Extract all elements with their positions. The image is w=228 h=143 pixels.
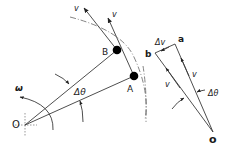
label-A: A <box>127 84 134 94</box>
delta-theta-arrow-right-upper <box>197 90 205 92</box>
label-delta-theta: Δθ <box>73 87 86 97</box>
label-omega: ω <box>15 83 23 93</box>
label-v-oa: v <box>192 70 197 79</box>
circular-motion-diagram: O B A ω Δθ v v o a b Δv v v Δθ <box>0 0 228 143</box>
label-delta-theta-right: Δθ <box>207 89 218 98</box>
right-figure: o a b Δv v v Δθ <box>143 34 218 143</box>
delta-theta-arrow-lower <box>80 101 83 122</box>
label-B: B <box>102 47 108 57</box>
radius-OA <box>25 76 134 125</box>
velocity-vector-A <box>108 18 134 76</box>
label-a: a <box>178 34 184 44</box>
label-delta-v: Δv <box>154 38 165 47</box>
label-O: O <box>12 119 20 130</box>
label-v-A: v <box>112 10 117 19</box>
point-B-dot <box>113 46 122 55</box>
label-b: b <box>145 49 152 59</box>
delta-theta-arrow-upper <box>55 74 69 84</box>
label-o: o <box>209 133 217 143</box>
label-v-ob: v <box>165 80 170 89</box>
arrowhead-oa <box>181 58 189 76</box>
label-v-B: v <box>74 4 79 13</box>
delta-theta-arrow-right-lower <box>172 98 184 109</box>
left-figure: O B A ω Δθ v v <box>12 4 146 137</box>
point-A-dot <box>130 72 139 81</box>
arrowhead-delta-v <box>161 47 169 51</box>
radius-OB <box>25 50 117 125</box>
